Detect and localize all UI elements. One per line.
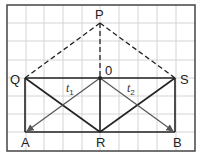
label-p: P xyxy=(95,8,104,21)
label-s: S xyxy=(180,73,189,86)
solid-lines xyxy=(25,78,175,132)
vector-t2-arrow xyxy=(100,78,173,131)
label-b: B xyxy=(173,136,182,149)
label-q: Q xyxy=(10,73,20,86)
vector-t1-label: t1 xyxy=(66,82,74,97)
vector-t1-subscript: 1 xyxy=(69,88,73,97)
vector-t2-label: t2 xyxy=(127,82,135,97)
origin-point xyxy=(98,76,102,80)
label-o: 0 xyxy=(105,64,112,77)
label-a: A xyxy=(21,136,30,149)
vector-t2-subscript: 2 xyxy=(130,88,134,97)
label-r: R xyxy=(96,136,105,149)
